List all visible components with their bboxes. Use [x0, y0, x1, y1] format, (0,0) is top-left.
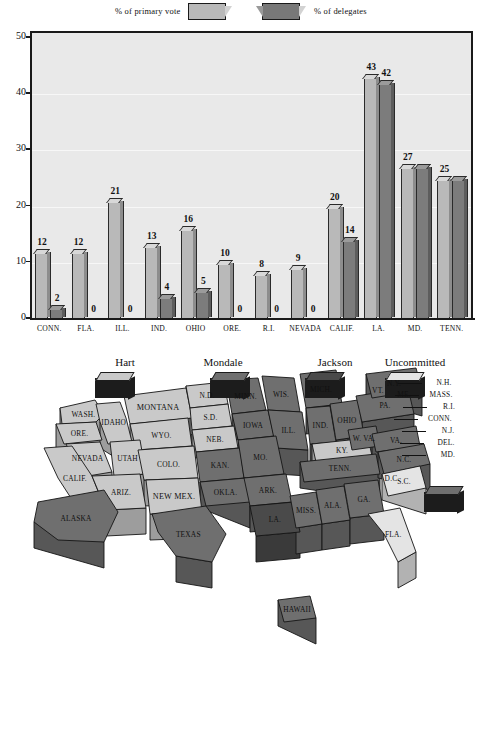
bar-value-delegates: 0 [267, 304, 287, 314]
bar-primary-vote [364, 78, 377, 320]
state-label: N.C. [376, 455, 432, 464]
bar-group: 2014 [325, 33, 362, 320]
bars-container: 1221202101341651008090201443422725 [32, 33, 471, 320]
legend-label-primary-vote: % of primary vote [115, 6, 180, 16]
cube-front [424, 492, 458, 512]
bar-delegates [160, 298, 173, 320]
bar-group: 210 [105, 33, 142, 320]
bar-side-face [355, 240, 359, 317]
cube-top [424, 486, 463, 495]
bar-group: 25 [434, 33, 471, 320]
bar-value-delegates: 0 [84, 304, 104, 314]
map-legend-header-hart: Hart [80, 356, 170, 368]
y-axis-tick [26, 261, 30, 263]
bar-value-primary-vote: 10 [215, 248, 235, 258]
y-axis-tick [26, 92, 30, 94]
state-label: NEW MEX. [146, 492, 202, 501]
state-label: ARK. [240, 486, 296, 495]
bar-group: 27 [398, 33, 435, 320]
bar-group: 120 [69, 33, 106, 320]
state-label: KAN. [192, 461, 248, 470]
bar-value-primary-vote: 21 [105, 186, 125, 196]
state-leader-label: R.I. [429, 402, 469, 411]
bar-value-delegates: 2 [47, 293, 67, 303]
state-label: TEXAS [160, 530, 216, 539]
state-label: ORE. [52, 429, 108, 438]
legend-swatch-primary-vote [188, 3, 226, 20]
state-leader-label: D.C. [372, 474, 412, 483]
state-label: KY. [314, 446, 370, 455]
bar-value-delegates: 0 [303, 304, 323, 314]
chart-legend: % of primary vote % of delegates [0, 0, 481, 22]
map-legend-header-jackson: Jackson [290, 356, 380, 368]
state-label: HAWAII [269, 605, 325, 614]
bar-delegates [416, 168, 429, 320]
state-label: PA. [357, 401, 413, 410]
y-axis-tick [26, 36, 30, 38]
state-extrusion [322, 520, 350, 550]
bar-value-primary-vote: 25 [434, 164, 454, 174]
bar-side-face [120, 201, 124, 317]
bar-side-face [428, 167, 432, 317]
cube-front [95, 378, 129, 398]
bar-side-face [391, 83, 395, 317]
state-leader-label: CONN. [420, 414, 460, 423]
bar-value-primary-vote: 20 [325, 192, 345, 202]
bar-side-face [62, 308, 66, 317]
state-label: COLO. [141, 460, 197, 469]
state-label: MICH. [293, 385, 349, 394]
us-map: HartMondaleJacksonUncommitted WASH.ORE.I… [0, 356, 481, 732]
bar-group: 134 [142, 33, 179, 320]
bar-value-delegates: 5 [193, 276, 213, 286]
state-leader-label: MASS. [421, 390, 461, 399]
bar-value-primary-vote: 13 [142, 231, 162, 241]
bar-group: 122 [32, 33, 69, 320]
y-axis-tick-label: 50 [0, 31, 26, 41]
dc-marker [424, 486, 464, 512]
bar-value-delegates: 42 [376, 68, 396, 78]
y-axis-tick [26, 205, 30, 207]
state-leader-label: MD. [428, 450, 468, 459]
state-label: MONTANA [130, 403, 186, 412]
map-legend-header-mondale: Mondale [178, 356, 268, 368]
bar-primary-vote [401, 168, 414, 320]
x-axis-label: TENN. [428, 324, 475, 333]
state-label: IDAHO [86, 418, 142, 427]
y-axis-tick [26, 148, 30, 150]
state-leader-label: DEL. [426, 438, 466, 447]
legend-item-delegates: % of delegates [262, 0, 367, 22]
state-label: ARIZ. [93, 488, 149, 497]
bar-primary-vote [108, 202, 121, 320]
bar-delegates [379, 84, 392, 320]
state-label: FLA. [365, 530, 421, 539]
bar-delegates [343, 241, 356, 320]
bar-delegates [452, 180, 465, 321]
y-axis-tick-label: 40 [0, 87, 26, 97]
cube-top [210, 372, 249, 381]
legend-swatch-delegates [262, 3, 300, 20]
y-axis-tick-label: 20 [0, 200, 26, 210]
bar-value-primary-vote: 16 [178, 214, 198, 224]
bar-value-primary-vote: 8 [252, 259, 272, 269]
bar-delegates [196, 292, 209, 320]
bar-value-delegates: 0 [230, 304, 250, 314]
state-label: ALASKA [48, 514, 104, 523]
bar-value-delegates: 0 [120, 304, 140, 314]
state-label: OHIO [319, 416, 375, 425]
bar-chart: 01020304050 1221202101341651008090201443… [0, 22, 481, 356]
state-label: VA. [368, 436, 424, 445]
bar-side-face [464, 179, 468, 318]
bar-value-delegates: 4 [157, 282, 177, 292]
bar-group: 165 [178, 33, 215, 320]
bar-side-face [208, 291, 212, 317]
bar-value-primary-vote: 27 [398, 152, 418, 162]
state-extrusion [256, 532, 300, 562]
y-axis-tick-label: 10 [0, 256, 26, 266]
state-leader-label: N.H. [424, 378, 464, 387]
bar-value-delegates: 14 [340, 225, 360, 235]
state-label: MO. [233, 453, 289, 462]
state-label: NEB. [187, 435, 243, 444]
state-label: GA. [336, 495, 392, 504]
y-axis-tick-label: 0 [0, 312, 26, 322]
bar-side-face [172, 297, 176, 317]
